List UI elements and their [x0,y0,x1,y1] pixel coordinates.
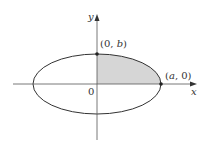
point-right-vertex [159,82,163,86]
origin-label: 0 [88,86,94,97]
top-vertex-label: (0, b) [100,38,127,49]
right-vertex-label: (a, 0) [165,70,192,81]
shaded-quadrant-region [97,54,161,84]
ellipse-diagram: y x 0 (0, b) (a, 0) [0,0,207,151]
y-axis-label: y [87,11,94,22]
point-top-vertex [95,52,99,56]
y-axis-arrow-icon [95,14,100,21]
x-axis-label: x [191,86,197,97]
